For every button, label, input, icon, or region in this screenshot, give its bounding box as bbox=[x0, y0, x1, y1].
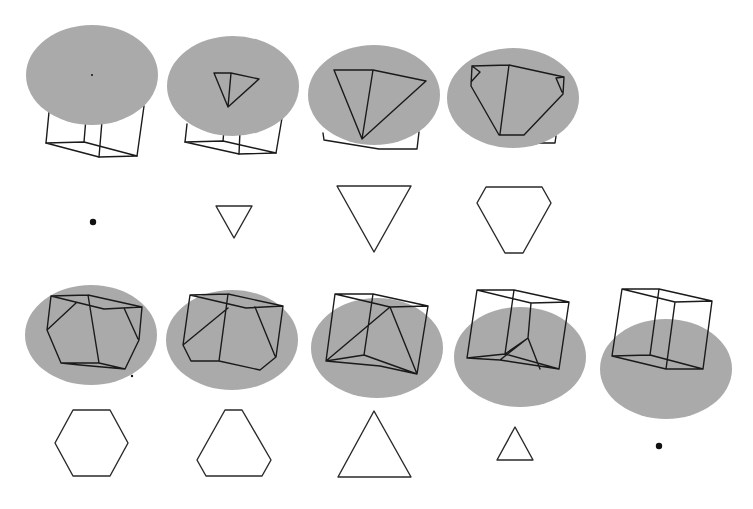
frame-5 bbox=[25, 285, 157, 476]
frame-4 bbox=[447, 48, 579, 253]
section-6-truncated-triangle bbox=[197, 410, 271, 476]
frame-9 bbox=[600, 289, 732, 449]
frame-6 bbox=[166, 290, 298, 476]
frame-7 bbox=[311, 294, 443, 477]
plane-3 bbox=[308, 45, 440, 145]
section-1-point bbox=[90, 219, 96, 225]
section-8-small-triangle bbox=[497, 427, 533, 460]
stray-mark bbox=[131, 375, 133, 377]
plane-5 bbox=[25, 285, 157, 385]
section-9-point bbox=[656, 443, 662, 449]
section-2-small-triangle bbox=[216, 206, 252, 238]
frame-1 bbox=[26, 25, 158, 225]
frame-3 bbox=[308, 45, 440, 252]
section-7-triangle bbox=[338, 411, 411, 477]
section-5-hexagon bbox=[55, 410, 128, 476]
frame-2 bbox=[167, 36, 299, 238]
cube-cross-section-diagram bbox=[0, 0, 753, 509]
plane-2 bbox=[167, 36, 299, 136]
plane-7 bbox=[311, 298, 443, 398]
section-4-truncated-triangle bbox=[477, 187, 551, 253]
section-3-large-triangle bbox=[337, 186, 411, 252]
contact-point-1 bbox=[91, 74, 93, 76]
frame-8 bbox=[454, 290, 586, 460]
